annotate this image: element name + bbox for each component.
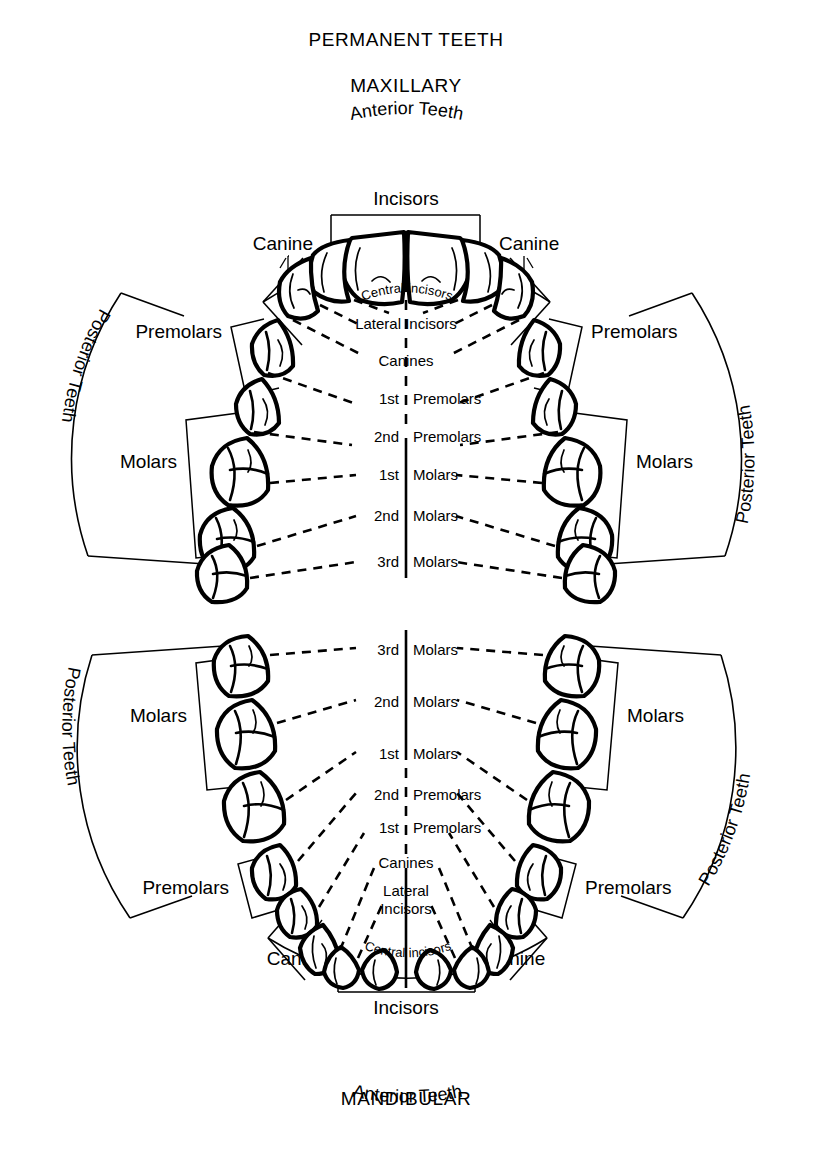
maxillary-posterior-teeth-label-right: Posterior Teeth bbox=[732, 404, 759, 526]
diagram-canvas: PERMANENT TEETH MAXILLARY MANDIBULAR Pos… bbox=[0, 0, 813, 1160]
maxillary-canine-leader-left bbox=[280, 258, 286, 268]
maxillary-posterior-right-top-edge bbox=[629, 293, 692, 316]
maxillary-tooth-lateral-incisor-right bbox=[462, 240, 502, 302]
maxillary-leader-first-molar-left bbox=[270, 475, 356, 483]
maxillary-tooth-canine-left bbox=[279, 258, 318, 319]
mandibular-center-prefix-second-molars: 2nd bbox=[374, 693, 399, 710]
mandibular-leader-first-premolar-left bbox=[319, 833, 364, 907]
maxillary-posterior-teeth-label-left: Posterior Teeth bbox=[58, 306, 115, 424]
maxillary-leader-third-molar-right bbox=[456, 562, 562, 578]
mandibular-leader-first-premolar-right bbox=[449, 833, 494, 907]
mandibular-premolars-label-left: Premolars bbox=[142, 877, 229, 898]
mandibular-leader-second-premolar-left bbox=[298, 793, 356, 861]
maxillary-anterior-teeth-label: Anterior Teeth bbox=[348, 98, 465, 124]
mandibular-premolars-label-right: Premolars bbox=[585, 877, 672, 898]
maxillary-center-prefix-second-premolars: 2nd bbox=[374, 428, 399, 445]
mandibular-arch-group: Posterior Teeth Posterior Teeth Anterior… bbox=[58, 630, 754, 1107]
maxillary-tooth-first-molar-right bbox=[544, 438, 601, 506]
mandibular-tooth-first-molar-right bbox=[529, 772, 589, 841]
mandibular-leader-second-molar-left bbox=[277, 700, 356, 723]
mandibular-center-label-lateral: Lateral bbox=[383, 882, 429, 899]
mandibular-leader-canine-right bbox=[439, 868, 473, 950]
mandibular-center-label-canines: Canines bbox=[378, 854, 433, 871]
maxillary-center-prefix-first-premolars: 1st bbox=[379, 390, 400, 407]
maxillary-leader-canine-left bbox=[293, 320, 362, 355]
page-title: PERMANENT TEETH bbox=[308, 29, 503, 50]
mandibular-posterior-left-bottom-edge bbox=[130, 896, 192, 918]
mandibular-posterior-arc-left bbox=[77, 655, 130, 918]
mandibular-tooth-third-molar-left bbox=[214, 636, 268, 696]
maxillary-center-label-second-premolars: Premolars bbox=[413, 428, 481, 445]
mandibular-center-prefix-first-molars: 1st bbox=[379, 745, 400, 762]
maxillary-leader-third-molar-left bbox=[250, 562, 356, 578]
maxillary-incisors-label: Incisors bbox=[373, 188, 438, 209]
maxillary-posterior-left-top-edge bbox=[121, 293, 184, 316]
mandibular-posterior-teeth-label-left: Posterior Teeth bbox=[58, 665, 84, 787]
maxillary-center-label-third-molars: Molars bbox=[413, 553, 458, 570]
mandibular-center-label-first-molars: Molars bbox=[413, 745, 458, 762]
maxillary-center-label-first-molars: Molars bbox=[413, 466, 458, 483]
mandibular-center-prefix-first-premolars: 1st bbox=[379, 819, 400, 836]
maxillary-center-label-canines: Canines bbox=[378, 352, 433, 369]
mandibular-tooth-second-molar-left bbox=[217, 700, 275, 768]
maxillary-arch-group: Posterior Teeth Posterior Teeth Anterior… bbox=[58, 98, 759, 602]
mandibular-leader-third-molar-left bbox=[270, 648, 356, 655]
maxillary-canine-label-left: Canine bbox=[253, 233, 313, 254]
mandibular-leader-first-molar-left bbox=[286, 752, 356, 800]
maxillary-leader-first-molar-right bbox=[456, 475, 542, 483]
mandibular-center-label-second-premolars: Premolars bbox=[413, 786, 481, 803]
mandibular-tooth-third-molar-right bbox=[545, 636, 599, 696]
mandibular-molars-label-left: Molars bbox=[130, 705, 187, 726]
permanent-teeth-diagram: PERMANENT TEETH MAXILLARY MANDIBULAR Pos… bbox=[0, 0, 813, 1160]
maxillary-canine-label-right: Canine bbox=[499, 233, 559, 254]
mandibular-molars-label-right: Molars bbox=[627, 705, 684, 726]
maxillary-tooth-second-premolar-left bbox=[236, 379, 279, 435]
maxillary-center-label-lateral-incisors: Lateral Incisors bbox=[355, 315, 457, 332]
maxillary-center-label-second-molars: Molars bbox=[413, 507, 458, 524]
mandibular-leader-canine-left bbox=[340, 868, 374, 950]
mandibular-center-label-third-molars: Molars bbox=[413, 641, 458, 658]
maxillary-tooth-lateral-incisor-left bbox=[310, 240, 350, 302]
mandibular-leader-second-molar-right bbox=[457, 700, 536, 723]
mandibular-incisors-label: Incisors bbox=[373, 997, 438, 1018]
mandibular-center-label-incisors-line2: Incisors bbox=[380, 900, 432, 917]
mandibular-center-label-first-premolars: Premolars bbox=[413, 819, 481, 836]
maxillary-canine-leader-right bbox=[527, 258, 533, 268]
maxillary-tooth-canine-right bbox=[494, 258, 533, 319]
maxillary-leader-second-molar-left bbox=[257, 516, 356, 546]
maxillary-molars-label-left: Molars bbox=[120, 451, 177, 472]
maxillary-center-label-first-premolars: Premolars bbox=[413, 390, 481, 407]
mandibular-tooth-second-molar-right bbox=[538, 700, 596, 768]
mandibular-center-label-second-molars: Molars bbox=[413, 693, 458, 710]
maxillary-leader-canine-right bbox=[450, 320, 519, 355]
mandibular-tooth-first-molar-left bbox=[224, 772, 284, 841]
mandibular-center-prefix-third-molars: 3rd bbox=[377, 641, 399, 658]
mandibular-posterior-right-bottom-edge bbox=[621, 896, 683, 918]
mandibular-leader-third-molar-right bbox=[457, 648, 543, 655]
maxillary-center-prefix-first-molars: 1st bbox=[379, 466, 400, 483]
maxillary-leader-lateral-incisor-left bbox=[320, 305, 360, 325]
maxillary-leader-lateral-incisor-right bbox=[452, 305, 492, 325]
maxillary-tooth-first-molar-left bbox=[212, 438, 269, 506]
maxillary-premolars-label-right: Premolars bbox=[591, 321, 678, 342]
maxillary-arch-title: MAXILLARY bbox=[350, 75, 462, 96]
maxillary-premolars-label-left: Premolars bbox=[135, 321, 222, 342]
mandibular-center-prefix-second-premolars: 2nd bbox=[374, 786, 399, 803]
mandibular-posterior-teeth-label-right: Posterior Teeth bbox=[695, 772, 755, 889]
maxillary-center-prefix-second-molars: 2nd bbox=[374, 507, 399, 524]
maxillary-leader-first-premolar-left bbox=[268, 373, 356, 404]
mandibular-anterior-teeth-label: Anterior Teeth bbox=[351, 1081, 464, 1107]
maxillary-leader-second-molar-right bbox=[456, 516, 555, 546]
maxillary-molars-label-right: Molars bbox=[636, 451, 693, 472]
maxillary-center-prefix-third-molars: 3rd bbox=[377, 553, 399, 570]
